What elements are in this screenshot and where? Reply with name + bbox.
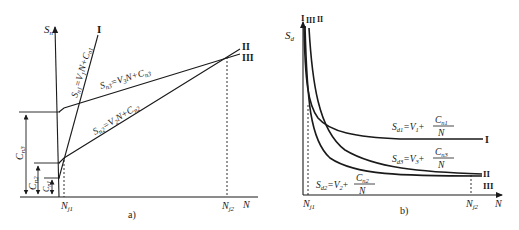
equation-sd3: Sd3=V3+ Cn3 N xyxy=(392,147,454,170)
label-curve-I: I xyxy=(485,134,489,145)
top-label-I: I xyxy=(301,13,305,23)
svg-text:Sd1=V1+: Sd1=V1+ xyxy=(392,122,424,133)
label-curve-II: II xyxy=(483,169,491,179)
panel-a-caption: a) xyxy=(128,209,136,221)
svg-text:Sd3=V3+: Sd3=V3+ xyxy=(392,154,424,165)
panel-b-caption: b) xyxy=(400,205,408,217)
panel-b: Sd I III II Sd1=V1+ Cn1 N I Sd3=V3+ Cn3 … xyxy=(285,13,503,217)
svg-text:Cn1: Cn1 xyxy=(435,115,448,126)
label-line-II: II xyxy=(242,41,250,52)
svg-text:Cn3: Cn3 xyxy=(435,147,449,158)
top-label-III: III xyxy=(306,16,315,25)
equation-sn2: Sn2=V2N+Cn2 xyxy=(91,101,142,138)
panel-a-x-axis-label: N xyxy=(242,199,251,210)
svg-text:N: N xyxy=(437,128,445,138)
panel-b-y-axis-label: Sd xyxy=(285,29,295,43)
cost-diagram: Sn I II III Sn1=V1N+Cn1 Sn3=V3N+Cn3 Sn2=… xyxy=(0,0,519,230)
label-line-III: III xyxy=(242,52,254,63)
panel-a: Sn I II III Sn1=V1N+Cn1 Sn3=V3N+Cn3 Sn2=… xyxy=(14,23,258,221)
equation-sn1: Sn1=V1N+Cn1 xyxy=(69,46,94,99)
label-c-n3: Cn3 xyxy=(14,146,27,160)
label-n-j1-b: Nj1 xyxy=(302,198,315,211)
svg-text:Cn2: Cn2 xyxy=(356,173,370,184)
panel-a-y-axis-label: Sn xyxy=(44,23,54,37)
equation-sd2: Sd2=V2+ Cn2 N xyxy=(316,173,375,196)
curve-II xyxy=(309,28,482,174)
label-n-j1: Nj1 xyxy=(60,200,73,213)
line-I xyxy=(59,35,98,178)
equation-sn3: Sn3=V3N+Cn3 xyxy=(99,66,153,92)
label-curve-III: III xyxy=(483,181,494,191)
label-c-n1: Cn1 xyxy=(42,181,52,192)
svg-text:N: N xyxy=(437,160,445,170)
top-label-II: II xyxy=(317,15,323,24)
label-n-j2: Nj2 xyxy=(221,200,235,213)
label-n-j2-b: Nj2 xyxy=(465,198,479,211)
panel-b-x-axis-label: N xyxy=(494,198,503,209)
svg-text:Sd2=V2+: Sd2=V2+ xyxy=(316,180,348,191)
label-line-I: I xyxy=(97,23,101,35)
equation-sd1: Sd1=V1+ Cn1 N xyxy=(392,115,454,138)
svg-text:N: N xyxy=(358,186,366,196)
